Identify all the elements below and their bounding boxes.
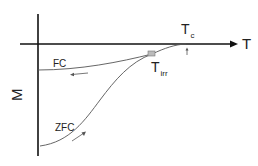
t-irr-subscript: irr [161, 69, 168, 78]
x-axis-arrowhead-icon [230, 41, 238, 48]
reversible-curve [152, 44, 186, 54]
fc-arrowhead-icon [70, 73, 74, 76]
t-irr-label: Tirr [151, 60, 168, 74]
t-c-main: T [181, 21, 190, 37]
t-c-label: Tc [181, 22, 195, 36]
diagram-canvas [0, 0, 258, 166]
zfc-curve-label: ZFC [55, 123, 74, 133]
t-c-subscript: c [191, 31, 195, 40]
fc-curve-label: FC [53, 59, 66, 69]
y-axis-label: M [9, 89, 24, 102]
x-axis-label: T [242, 36, 251, 51]
zfc-direction-arrow-icon [72, 133, 84, 141]
t-irr-main: T [151, 59, 160, 75]
t-irr-marker [148, 51, 155, 56]
t-c-arrowhead-icon [186, 48, 189, 51]
fc-direction-arrow-icon [72, 73, 88, 75]
